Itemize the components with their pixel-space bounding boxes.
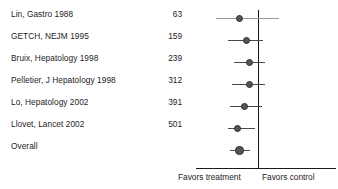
- favors-treatment-label: Favors treatment: [178, 172, 241, 182]
- study-label: GETCH, NEJM 1995: [11, 31, 89, 41]
- study-count: 312: [156, 75, 182, 85]
- study-label: Overall: [11, 141, 38, 151]
- study-label: Bruix, Hepatology 1998: [11, 53, 98, 63]
- point-estimate-marker: [236, 15, 243, 22]
- x-axis-line: [196, 168, 336, 169]
- study-count: 239: [156, 53, 182, 63]
- study-count: 63: [156, 9, 182, 19]
- study-count: 159: [156, 31, 182, 41]
- point-estimate-marker: [246, 81, 253, 88]
- confidence-interval-line: [228, 128, 256, 129]
- favors-control-label: Favors control: [262, 172, 315, 182]
- confidence-interval-line: [216, 18, 280, 19]
- study-label: Lo, Hepatology 2002: [11, 97, 89, 107]
- point-estimate-marker: [246, 59, 253, 66]
- study-label: Llovet, Lancet 2002: [11, 119, 84, 129]
- plot-area: [196, 0, 337, 189]
- point-estimate-marker: [235, 146, 244, 155]
- study-label: Pelletier, J Hepatology 1998: [11, 75, 116, 85]
- study-count: 391: [156, 97, 182, 107]
- null-effect-line: [258, 10, 259, 168]
- study-label: Lin, Gastro 1988: [11, 9, 73, 19]
- point-estimate-marker: [241, 103, 248, 110]
- point-estimate-marker: [234, 125, 241, 132]
- study-count: 501: [156, 119, 182, 129]
- point-estimate-marker: [243, 37, 250, 44]
- forest-plot: Lin, Gastro 198863GETCH, NEJM 1995159Bru…: [0, 0, 338, 189]
